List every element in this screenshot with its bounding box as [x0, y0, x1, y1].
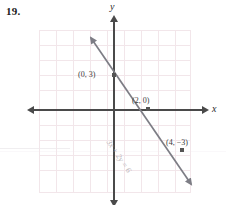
coordinate-graph: y x (0, 3) (2, 0) (4, −3) 3x + 2y = 6	[0, 0, 226, 205]
data-point-marker	[180, 148, 184, 152]
point-label-2-0: (2, 0)	[132, 96, 149, 105]
data-point-marker	[112, 73, 116, 77]
data-point-marker	[146, 107, 150, 111]
plotted-line	[0, 0, 226, 205]
worksheet-page: 19. y x	[0, 0, 226, 205]
point-label-4-neg3: (4, −3)	[166, 138, 188, 147]
point-label-0-3: (0, 3)	[78, 70, 95, 79]
